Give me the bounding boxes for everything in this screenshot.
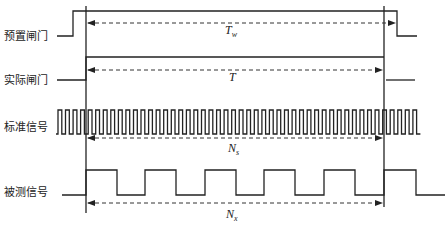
- tw-label: Tw: [225, 23, 238, 39]
- ns-label: Ns: [227, 141, 239, 157]
- standard-signal-waveform: [56, 110, 420, 134]
- label-measured-signal: 被测信号: [4, 186, 48, 199]
- label-actual-gate: 实际闸门: [4, 73, 48, 87]
- label-standard-signal: 标准信号: [4, 120, 48, 134]
- label-preset-gate: 预置闸门: [4, 29, 48, 43]
- actual-gate-waveform: [57, 57, 384, 80]
- timing-diagram: 预置闸门 实际闸门 标准信号 被测信号 Tw T Ns Nx: [0, 0, 446, 229]
- t-label: T: [229, 70, 237, 84]
- measured-signal-waveform: [62, 170, 445, 195]
- nx-label: Nx: [225, 207, 238, 223]
